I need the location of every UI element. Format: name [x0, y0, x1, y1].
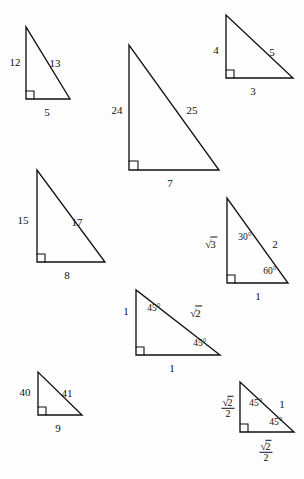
- right-angle-marker: [129, 161, 138, 170]
- label-t8-leg-vertical: √2 2: [221, 397, 234, 419]
- label-t3-leg-vertical: 4: [213, 45, 219, 56]
- label-t2-leg-vertical: 24: [112, 105, 123, 116]
- triangle-5-12-13-outline: [26, 27, 70, 99]
- label-t5-leg-horizontal: 1: [255, 291, 261, 302]
- fraction-numerator: √2: [259, 441, 272, 453]
- label-t6-hypotenuse: √2: [190, 308, 202, 319]
- right-angle-marker: [226, 70, 234, 78]
- triangle-45-45-90-unit-outline: [136, 290, 220, 355]
- label-t7-leg-horizontal: 9: [55, 423, 61, 434]
- label-t1-leg-horizontal: 5: [44, 107, 50, 118]
- label-t4-hypotenuse: 17: [72, 217, 83, 228]
- label-t6-leg-horizontal: 1: [169, 363, 175, 374]
- triangle-45-45-90-unit-hyp-outline: [240, 382, 294, 432]
- label-t3-hypotenuse: 5: [269, 47, 275, 58]
- label-t2-hypotenuse: 25: [187, 105, 198, 116]
- label-t8-angle-top: 45°: [249, 399, 262, 409]
- label-t3-leg-horizontal: 3: [250, 86, 256, 97]
- label-t8-hypotenuse: 1: [279, 399, 285, 410]
- right-triangles-diagram: 12 13 5 24 25 7 4 5 3 15 17 8 √3 30° 2 6…: [0, 0, 304, 479]
- triangle-7-24-25-outline: [129, 45, 219, 170]
- right-angle-marker: [227, 275, 235, 283]
- label-t6-angle-bottom: 45°: [193, 339, 206, 349]
- label-t5-angle-bottom: 60°: [263, 267, 276, 277]
- label-t7-hypotenuse: 41: [62, 388, 73, 399]
- fraction-sqrt2-over-2: √2 2: [221, 397, 234, 419]
- right-angle-marker: [26, 91, 34, 99]
- right-angle-marker: [37, 254, 45, 262]
- label-t4-leg-horizontal: 8: [64, 270, 70, 281]
- fraction-denominator: 2: [221, 409, 234, 419]
- label-t1-hypotenuse: 13: [50, 58, 61, 69]
- radical-sqrt2: √2: [190, 308, 202, 319]
- label-t5-angle-top: 30°: [238, 233, 251, 243]
- radical-sqrt3: √3: [205, 239, 217, 250]
- label-t8-angle-bottom: 45°: [269, 418, 282, 428]
- label-t6-angle-top: 45°: [147, 304, 160, 314]
- label-t8-leg-horizontal: √2 2: [259, 441, 272, 463]
- triangle-9-40-41-outline: [38, 372, 82, 415]
- label-t5-leg-vertical: √3: [205, 239, 217, 250]
- label-t7-leg-vertical: 40: [20, 387, 31, 398]
- triangle-3-4-5-outline: [226, 15, 293, 78]
- label-t1-leg-vertical: 12: [10, 57, 21, 68]
- right-angle-marker: [136, 347, 144, 355]
- fraction-numerator: √2: [221, 397, 234, 409]
- label-t2-leg-horizontal: 7: [167, 178, 173, 189]
- label-t4-leg-vertical: 15: [18, 215, 29, 226]
- label-t6-leg-vertical: 1: [123, 306, 129, 317]
- right-angle-marker: [240, 424, 248, 432]
- fraction-sqrt2-over-2: √2 2: [259, 441, 272, 463]
- fraction-denominator: 2: [259, 453, 272, 463]
- right-angle-marker: [38, 407, 46, 415]
- triangle-30-60-90-outline: [227, 198, 288, 283]
- label-t5-hypotenuse: 2: [272, 239, 278, 250]
